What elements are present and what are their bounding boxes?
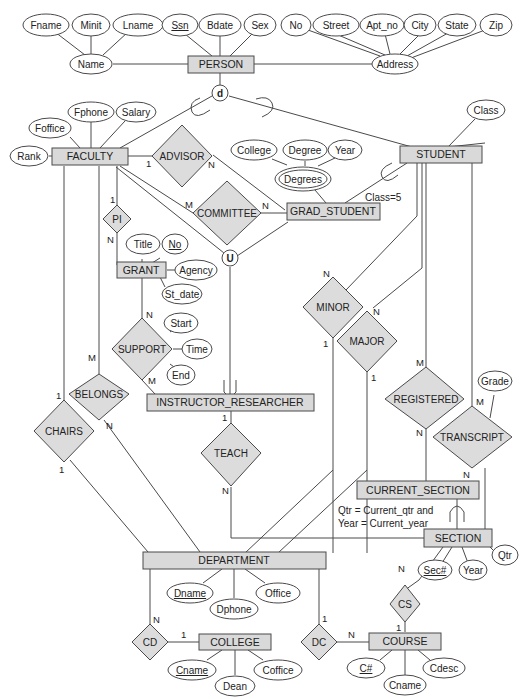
svg-text:STUDENT: STUDENT — [416, 148, 466, 160]
entity-course: COURSE — [369, 633, 441, 650]
svg-text:Foffice: Foffice — [35, 123, 65, 134]
svg-text:College: College — [237, 145, 271, 156]
rel-support: SUPPORT — [112, 318, 172, 380]
entity-grant: GRANT — [117, 262, 166, 278]
attr-bdate: Bdate — [199, 14, 241, 36]
svg-text:FACULTY: FACULTY — [67, 150, 113, 162]
svg-text:Year: Year — [463, 565, 484, 576]
attr-time: Time — [182, 339, 212, 359]
svg-text:Cname: Cname — [389, 680, 422, 691]
svg-text:GRAD_STUDENT: GRAD_STUDENT — [290, 205, 376, 217]
attr-address: Address — [372, 54, 418, 74]
svg-text:Time: Time — [186, 344, 208, 355]
attr-dphone: Dphone — [210, 599, 258, 619]
svg-text:N: N — [323, 268, 330, 279]
svg-text:Salary: Salary — [122, 107, 150, 118]
svg-text:1: 1 — [146, 158, 151, 169]
svg-text:CHAIRS: CHAIRS — [45, 426, 83, 437]
rel-registered: REGISTERED — [385, 367, 464, 429]
svg-text:COMMITTEE: COMMITTEE — [197, 208, 257, 219]
svg-text:Start: Start — [170, 318, 191, 329]
entity-instructor-researcher: INSTRUCTOR_RESEARCHER — [147, 394, 314, 411]
attr-no: No — [281, 14, 311, 36]
attr-salary: Salary — [116, 102, 156, 122]
attr-name: Name — [70, 54, 112, 74]
attr-state: State — [438, 14, 476, 36]
attr-city: City — [404, 14, 436, 36]
svg-text:Bdate: Bdate — [207, 20, 234, 31]
svg-text:Address: Address — [377, 59, 414, 70]
svg-text:BELONGS: BELONGS — [75, 389, 124, 400]
rel-cd: CD — [132, 624, 168, 660]
svg-text:PERSON: PERSON — [199, 58, 243, 70]
svg-text:TEACH: TEACH — [214, 448, 248, 459]
svg-text:N: N — [398, 563, 405, 574]
svg-text:N: N — [262, 200, 269, 211]
attr-st-date: St_date — [162, 284, 202, 304]
entity-grad-student: GRAD_STUDENT — [287, 203, 380, 220]
current-predicate-line2: Year = Current_year — [338, 518, 429, 529]
svg-text:1: 1 — [56, 390, 61, 401]
current-predicate-line1: Qtr = Current_qtr and — [338, 505, 433, 516]
entity-college: COLLEGE — [199, 634, 271, 650]
svg-text:MINOR: MINOR — [316, 302, 349, 313]
entity-person: PERSON — [188, 56, 254, 73]
svg-text:N: N — [146, 309, 153, 320]
attr-degrees-multivalued: Degrees — [275, 167, 331, 191]
svg-text:Fphone: Fphone — [74, 107, 108, 118]
svg-text:Degrees: Degrees — [284, 174, 322, 185]
svg-text:N: N — [463, 469, 470, 480]
svg-text:C#: C# — [360, 663, 373, 674]
svg-text:Dphone: Dphone — [216, 604, 251, 615]
attr-grade: Grade — [478, 371, 512, 391]
svg-text:N: N — [208, 159, 215, 170]
svg-text:Title: Title — [134, 239, 153, 250]
svg-text:1: 1 — [181, 629, 186, 640]
svg-text:Minit: Minit — [80, 20, 101, 31]
attr-zip: Zip — [480, 14, 512, 36]
entity-department: DEPARTMENT — [143, 552, 326, 569]
class-predicate: Class=5 — [365, 192, 402, 203]
rel-belongs: BELONGS — [69, 374, 129, 420]
rel-committee: COMMITTEE — [193, 181, 261, 245]
svg-text:M: M — [148, 375, 156, 386]
attr-foffice: Foffice — [29, 118, 71, 138]
attr-dean: Dean — [215, 676, 255, 696]
attr-title: Title — [126, 234, 160, 254]
attr-cdesc: Cdesc — [423, 658, 465, 678]
attr-rank: Rank — [10, 146, 48, 166]
attr-sex: Sex — [244, 14, 276, 36]
attr-year: Year — [328, 140, 362, 160]
disjoint-circle: d — [212, 85, 228, 101]
rel-transcript: TRANSCRIPT — [433, 406, 512, 468]
svg-text:No: No — [290, 20, 303, 31]
svg-text:Lname: Lname — [123, 20, 154, 31]
attr-sec-year: Year — [459, 560, 487, 580]
svg-text:Dean: Dean — [223, 681, 247, 692]
svg-text:1: 1 — [59, 464, 64, 475]
attr-fname: Fname — [23, 14, 69, 36]
rel-advisor: ADVISOR — [152, 125, 212, 187]
rel-chairs: CHAIRS — [34, 400, 94, 462]
attr-minit: Minit — [72, 14, 110, 36]
svg-text:REGISTERED: REGISTERED — [393, 394, 458, 405]
svg-text:MAJOR: MAJOR — [350, 336, 385, 347]
attr-dname: Dname — [167, 583, 213, 603]
svg-text:Zip: Zip — [489, 20, 503, 31]
svg-text:PI: PI — [112, 214, 121, 225]
svg-text:1: 1 — [396, 622, 401, 633]
svg-text:N: N — [348, 629, 355, 640]
attr-office: Office — [256, 583, 300, 603]
svg-text:ADVISOR: ADVISOR — [159, 151, 204, 162]
svg-text:TRANSCRIPT: TRANSCRIPT — [440, 432, 504, 443]
attr-grant-no: No — [162, 234, 188, 254]
svg-text:N: N — [107, 234, 114, 245]
svg-text:COURSE: COURSE — [383, 635, 428, 647]
svg-text:Year: Year — [335, 145, 356, 156]
svg-text:N: N — [222, 485, 229, 496]
svg-text:M: M — [476, 396, 484, 407]
svg-text:Rank: Rank — [17, 151, 41, 162]
svg-text:M: M — [416, 357, 424, 368]
svg-text:Class: Class — [473, 105, 498, 116]
svg-text:CURRENT_SECTION: CURRENT_SECTION — [366, 484, 470, 496]
